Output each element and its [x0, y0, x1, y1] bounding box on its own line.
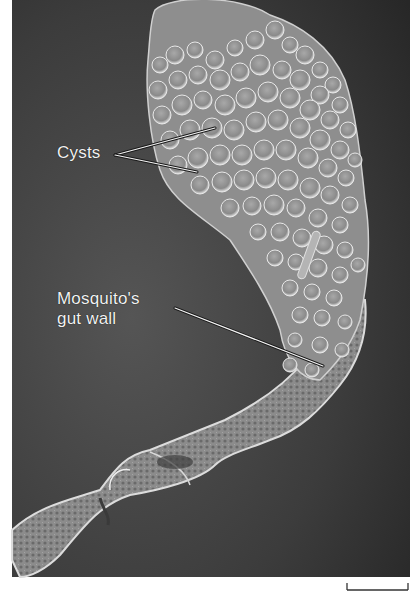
gut-wall-label: Mosquito's gut wall	[57, 289, 177, 329]
micrograph-figure: Cysts Mosquito's gut wall	[0, 0, 413, 596]
cysts-label: Cysts	[57, 143, 101, 163]
scale-bar	[347, 583, 408, 590]
gut-wall-label-line1: Mosquito's	[57, 289, 177, 309]
gut-wall-label-line2: gut wall	[57, 309, 177, 329]
